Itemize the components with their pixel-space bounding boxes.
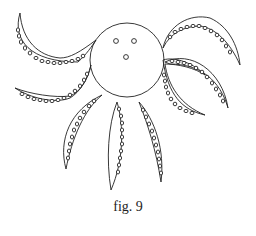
tentacle-middle-right: [165, 59, 228, 108]
figure-caption: fig. 9: [0, 199, 256, 215]
tentacle-lower-left: [64, 95, 102, 169]
octopus-body: [90, 23, 164, 97]
tentacle-upper-left: [16, 13, 96, 65]
mouth: [124, 55, 129, 60]
tentacle-lower-right: [162, 59, 205, 115]
tentacle-bottom-center-left: [108, 102, 123, 190]
tentacle-bottom-center-right: [139, 102, 163, 182]
right-eye: [132, 39, 137, 44]
left-eye: [114, 39, 119, 44]
tentacle-upper-right: [163, 17, 240, 65]
tentacle-middle-left: [15, 65, 91, 103]
